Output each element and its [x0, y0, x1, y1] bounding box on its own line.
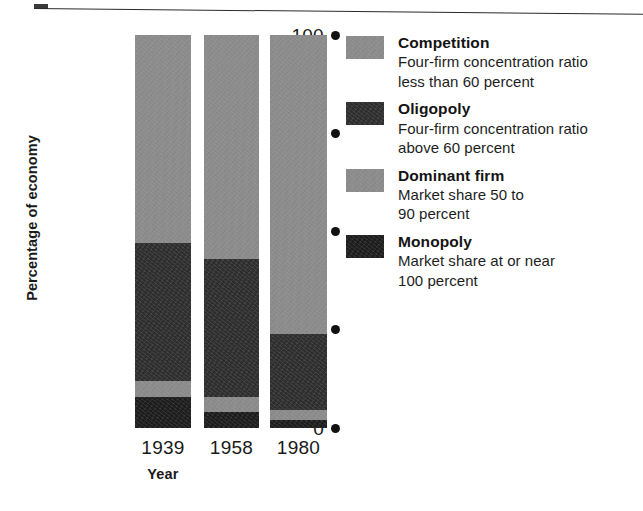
bar-segment-competition: [204, 35, 259, 259]
bar-segment-competition: [135, 35, 191, 243]
legend-swatch-competition: [346, 36, 384, 59]
x-axis-title: Year: [127, 466, 199, 482]
legend-swatch-dominant: [346, 169, 384, 192]
bar-segment-oligopoly: [135, 243, 191, 381]
legend-title: Competition: [398, 34, 638, 52]
legend-description: Market share at or near 100 percent: [398, 251, 638, 290]
chart-figure: Percentage of economy 1007550250 1939195…: [0, 0, 643, 511]
bar-segment-monopoly: [270, 420, 327, 428]
bar-segment-competition: [270, 35, 327, 334]
stacked-bar-1939: [135, 35, 191, 428]
x-axis-tick-label: 1980: [262, 437, 335, 459]
stacked-bar-1958: [204, 35, 259, 428]
chart-legend: CompetitionFour-firm concentration ratio…: [346, 34, 638, 299]
legend-description: Four-firm concentration ratio less than …: [398, 52, 638, 91]
bar-segment-monopoly: [135, 397, 191, 428]
legend-title: Dominant firm: [398, 167, 638, 185]
legend-entry-oligopoly: OligopolyFour-firm concentration ratio a…: [346, 100, 638, 157]
x-axis-tick-label: 1958: [196, 437, 267, 459]
bar-segment-dominant: [204, 397, 259, 413]
legend-title: Oligopoly: [398, 100, 638, 118]
legend-entry-competition: CompetitionFour-firm concentration ratio…: [346, 34, 638, 91]
y-axis-tick-dot: [331, 31, 340, 40]
bar-segment-dominant: [270, 410, 327, 420]
y-axis-title: Percentage of economy: [24, 88, 40, 348]
bar-segment-oligopoly: [204, 259, 259, 397]
legend-entry-monopoly: MonopolyMarket share at or near 100 perc…: [346, 233, 638, 290]
legend-swatch-monopoly: [346, 235, 384, 258]
x-axis-tick-label: 1939: [127, 437, 199, 459]
y-axis-tick-dot: [331, 424, 340, 433]
bar-segment-dominant: [135, 381, 191, 397]
legend-swatch-oligopoly: [346, 102, 384, 125]
legend-description: Market share 50 to 90 percent: [398, 185, 638, 224]
y-axis-tick-dot: [331, 325, 340, 334]
legend-title: Monopoly: [398, 233, 638, 251]
plot-area: Percentage of economy 1007550250 1939195…: [0, 0, 340, 511]
y-axis-tick-dot: [331, 129, 340, 138]
bar-segment-monopoly: [204, 412, 259, 428]
y-axis-tick-dot: [331, 227, 340, 236]
bar-segment-oligopoly: [270, 334, 327, 411]
legend-entry-dominant: Dominant firmMarket share 50 to 90 perce…: [346, 167, 638, 224]
legend-description: Four-firm concentration ratio above 60 p…: [398, 119, 638, 158]
stacked-bar-1980: [270, 35, 327, 428]
